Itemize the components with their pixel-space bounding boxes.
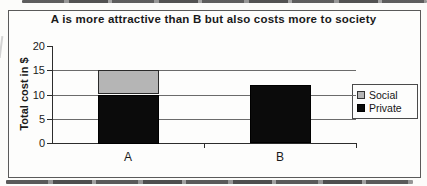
x-axis-label-B: B (260, 150, 300, 164)
bar-A-social (98, 70, 159, 94)
y-axis-tick-5 (47, 119, 52, 120)
scan-artifact-bottom (6, 180, 413, 184)
legend-swatch-icon (357, 104, 365, 112)
bar-A-private (98, 95, 159, 144)
y-axis-tick-label: 15 (22, 64, 45, 76)
x-axis-tick-2 (356, 143, 357, 148)
y-axis-line (52, 46, 53, 144)
y-axis-tick-label: 20 (22, 40, 45, 52)
legend-label: Social (369, 90, 398, 101)
y-axis-tick-15 (47, 70, 52, 71)
y-axis-tick-10 (47, 95, 52, 96)
y-axis-tick-label: 10 (22, 89, 45, 101)
y-axis-tick-label: 5 (22, 113, 45, 125)
y-axis-tick-label: 0 (22, 137, 45, 149)
legend-swatch-icon (357, 91, 365, 99)
legend: SocialPrivate (352, 84, 418, 119)
legend-item-social: Social (357, 89, 413, 101)
chart-title: A is more attractive than B but also cos… (8, 13, 419, 25)
legend-item-private: Private (357, 102, 413, 114)
legend-label: Private (369, 103, 402, 114)
bar-B-private (250, 85, 311, 143)
y-axis-tick-20 (47, 46, 52, 47)
scanned-chart-page: A is more attractive than B but also cos… (0, 0, 427, 186)
x-axis-tick-1 (204, 143, 205, 148)
scan-artifact-left-mark (0, 36, 3, 58)
x-axis-label-A: A (108, 150, 148, 164)
scan-artifact-top (22, 0, 427, 3)
